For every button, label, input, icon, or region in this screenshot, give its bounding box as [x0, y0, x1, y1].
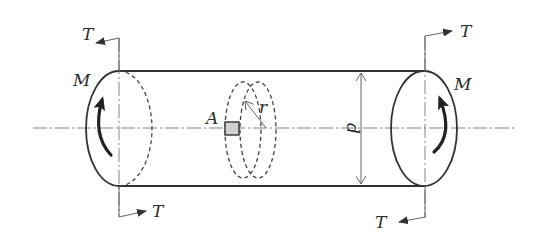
inner-section-ring-back	[240, 82, 276, 178]
moment-label-right: M	[453, 74, 472, 94]
torque-label-top-right: T	[460, 21, 473, 41]
torsion-shaft-diagram: T T T T M M A r d	[0, 0, 546, 244]
moment-label-left: M	[72, 70, 91, 90]
torque-arrow-top-right	[425, 31, 452, 72]
element-label-a: A	[204, 108, 218, 128]
diameter-label: d	[343, 123, 363, 134]
torque-label-top-left: T	[82, 24, 95, 44]
moment-arrow-left	[99, 100, 111, 155]
torque-arrow-bottom-left	[119, 186, 146, 217]
torque-arrow-bottom-right	[399, 186, 425, 222]
moment-arrow-right	[434, 99, 446, 152]
torque-label-bottom-right: T	[375, 212, 388, 232]
element-a	[225, 122, 239, 135]
left-end-face-hidden	[119, 71, 152, 186]
torque-label-bottom-left: T	[152, 201, 165, 221]
left-end-face-solid	[86, 71, 119, 186]
radius-label: r	[259, 97, 268, 117]
torque-arrow-top-left	[96, 38, 119, 72]
